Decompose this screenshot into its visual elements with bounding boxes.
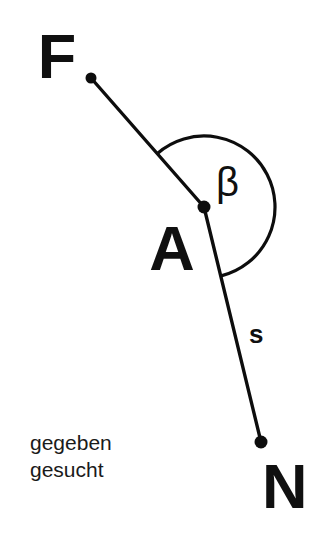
- note-gegeben: gegeben: [30, 431, 112, 454]
- point-dot-a: [198, 201, 211, 214]
- segment-a-f: [91, 78, 204, 207]
- point-label-a: A: [149, 213, 195, 283]
- geometry-figure-canvas: F A N β s gegeben gesucht: [0, 0, 325, 539]
- point-dot-f: [86, 73, 97, 84]
- segment-label-s: s: [249, 319, 263, 349]
- point-dot-n: [255, 436, 268, 449]
- geometry-diagram: F A N β s gegeben gesucht: [0, 0, 325, 539]
- point-label-f: F: [38, 21, 76, 91]
- angle-label-beta: β: [216, 160, 239, 204]
- note-gesucht: gesucht: [30, 458, 104, 481]
- point-label-n: N: [262, 451, 308, 521]
